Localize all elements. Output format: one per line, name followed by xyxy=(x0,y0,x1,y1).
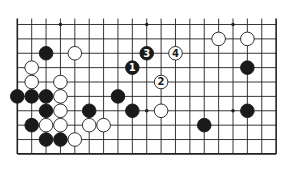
star-point xyxy=(145,109,149,113)
star-point xyxy=(145,23,149,27)
black-stone-3: 3 xyxy=(140,46,154,60)
move-number: 3 xyxy=(143,48,150,59)
star-point xyxy=(59,23,63,27)
white-stone xyxy=(54,104,68,118)
black-stone xyxy=(39,104,53,118)
white-stone xyxy=(212,32,226,46)
black-stone xyxy=(111,90,125,104)
black-stone xyxy=(39,133,53,147)
move-number: 2 xyxy=(158,76,165,87)
white-stone xyxy=(97,118,111,132)
white-stone xyxy=(68,133,82,147)
star-point xyxy=(231,23,235,27)
black-stone xyxy=(126,104,140,118)
white-stone xyxy=(241,32,255,46)
move-number: 4 xyxy=(172,48,179,59)
black-stone xyxy=(25,90,39,104)
white-stone xyxy=(68,46,82,60)
black-stone xyxy=(39,90,53,104)
white-stone xyxy=(25,75,39,89)
black-stone xyxy=(197,118,211,132)
black-stone-1: 1 xyxy=(126,61,140,75)
white-stone-2: 2 xyxy=(154,75,168,89)
black-stone xyxy=(82,104,96,118)
move-number: 1 xyxy=(129,62,136,73)
white-stone xyxy=(54,75,68,89)
white-stone xyxy=(154,104,168,118)
black-stone xyxy=(241,61,255,75)
white-stone xyxy=(82,118,96,132)
white-stone xyxy=(54,118,68,132)
black-stone xyxy=(10,90,24,104)
black-stone xyxy=(25,118,39,132)
go-board: 3412 xyxy=(0,0,292,169)
white-stone xyxy=(25,61,39,75)
black-stone xyxy=(39,46,53,60)
star-point xyxy=(231,109,235,113)
white-stone-4: 4 xyxy=(169,46,183,60)
black-stone xyxy=(241,104,255,118)
white-stone xyxy=(54,90,68,104)
black-stone xyxy=(54,133,68,147)
white-stone xyxy=(39,118,53,132)
